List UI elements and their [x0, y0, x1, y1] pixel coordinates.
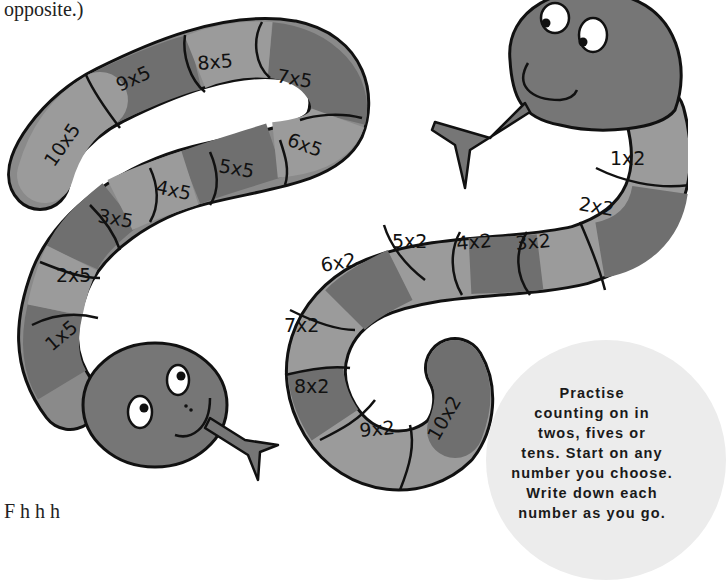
segment-label-2x2: 2x2 — [577, 192, 616, 220]
tongue-icon — [432, 103, 530, 188]
segment-label-8x2: 8x2 — [294, 375, 329, 397]
segment-label-4x2: 4x2 — [455, 229, 492, 254]
segment-label-3x2: 3x2 — [514, 229, 551, 254]
eye-icon — [579, 18, 607, 52]
eye-icon — [541, 3, 569, 33]
tongue-icon — [205, 418, 278, 480]
tip-line: number as you go. — [492, 503, 692, 523]
segment-label-5x2: 5x2 — [392, 230, 427, 252]
eye-icon — [167, 365, 189, 395]
segment-label-9x2: 9x2 — [358, 416, 395, 441]
tip-text: Practise counting on in twos, fives or t… — [492, 383, 692, 523]
segment-label-1x2: 1x2 — [610, 147, 645, 169]
segment-label-2x5: 2x5 — [56, 264, 91, 286]
tip-line: number you choose. — [492, 463, 692, 483]
eye-icon — [128, 396, 152, 428]
tip-line: Write down each — [492, 483, 692, 503]
segment-label-7x2: 7x2 — [284, 314, 319, 336]
segment-label-8x5: 8x5 — [196, 49, 233, 74]
segment-label-7x5: 7x5 — [275, 64, 314, 92]
tip-line: twos, fives or — [492, 423, 692, 443]
tip-line: Practise — [492, 383, 692, 403]
tip-line: counting on in — [492, 403, 692, 423]
body-text-fragment: F h h h — [4, 500, 60, 523]
tip-line: tens. Start on any — [492, 443, 692, 463]
